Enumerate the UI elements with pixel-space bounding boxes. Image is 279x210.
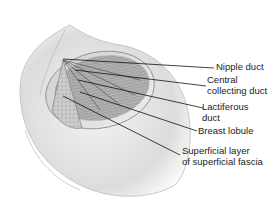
label-text: Lactiferous [202, 102, 248, 113]
label-text: of superficial fascia [182, 157, 263, 168]
label-central-collecting-duct: Central collecting duct [207, 75, 267, 96]
label-text: Superficial layer [182, 146, 263, 157]
label-text: duct [202, 113, 248, 124]
breast-anatomy-diagram: Nipple duct Central collecting duct Lact… [0, 0, 279, 210]
label-breast-lobule: Breast lobule [198, 126, 253, 137]
label-superficial-fascia: Superficial layer of superficial fascia [182, 146, 263, 167]
label-text: Nipple duct [216, 61, 264, 72]
label-text: Central [207, 75, 267, 86]
label-text: Breast lobule [198, 125, 253, 136]
label-lactiferous-duct: Lactiferous duct [202, 102, 248, 123]
label-text: collecting duct [207, 86, 267, 97]
label-nipple-duct: Nipple duct [216, 62, 264, 73]
